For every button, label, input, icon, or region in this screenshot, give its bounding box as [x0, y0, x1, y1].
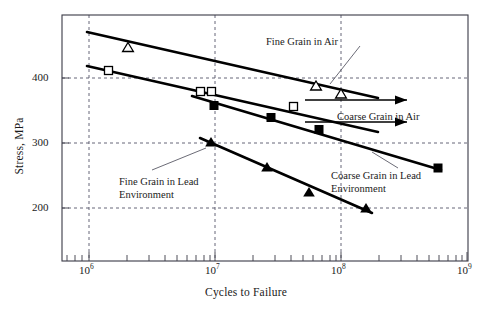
y-tick-label-300: 300 [32, 136, 49, 148]
x-axis-title: Cycles to Failure [0, 286, 492, 298]
data-point-marker [290, 103, 298, 111]
annotation-coarse-grain-in-air: Coarse Grain in Air [337, 111, 420, 124]
data-point-marker [208, 88, 216, 96]
annotation-fine-grain-in-air: Fine Grain in Air [266, 36, 338, 49]
data-point-marker [197, 88, 205, 96]
x-tick-label-1e8: 108 [331, 264, 346, 276]
data-point-marker [210, 102, 218, 110]
x-tick-label-1e6: 106 [79, 264, 94, 276]
y-tick-label-400: 400 [32, 71, 49, 83]
data-point-marker [315, 126, 323, 134]
annotation-fine-grain-in-lead: Fine Grain in Lead Environment [119, 176, 199, 201]
annotation-coarse-grain-in-lead: Coarse Grain in Lead Environment [331, 170, 421, 195]
y-axis-title: Stress, MPa [13, 91, 25, 201]
data-point-marker [267, 114, 275, 122]
x-tick-label-1e7: 107 [205, 264, 220, 276]
data-point-marker [434, 164, 442, 172]
y-tick-label-200: 200 [32, 201, 49, 213]
data-point-marker [105, 67, 113, 75]
fatigue-sn-chart [0, 0, 492, 317]
x-tick-label-1e9: 109 [457, 264, 472, 276]
